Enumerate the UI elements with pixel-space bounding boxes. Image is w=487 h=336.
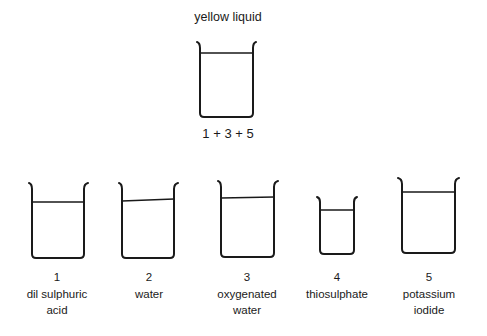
beaker-name-line2: acid	[27, 302, 88, 319]
beaker-2	[119, 183, 178, 258]
beaker-name-line2: iodide	[403, 302, 455, 319]
top-mix-label: 1 + 3 + 5	[202, 126, 253, 143]
beaker-name-line1: thiosulphate	[306, 286, 368, 303]
beaker-3-label: 3 oxygenated water	[217, 269, 276, 319]
beaker-4	[317, 197, 357, 254]
beaker-number: 3	[217, 269, 276, 286]
beaker-number: 5	[403, 269, 455, 286]
beaker-1-label: 1 dil sulphuric acid	[27, 269, 88, 319]
beaker-1	[29, 183, 88, 258]
beaker-name-line1: potassium	[403, 286, 455, 303]
beaker-4-label: 4 thiosulphate	[306, 269, 368, 302]
beaker-name-line1: dil sulphuric	[27, 286, 88, 303]
beaker-mixed	[197, 42, 256, 117]
top-title: yellow liquid	[194, 9, 261, 26]
beaker-number: 2	[135, 269, 163, 286]
beaker-2-label: 2 water	[135, 269, 163, 302]
beaker-5	[398, 178, 459, 253]
beaker-number: 4	[306, 269, 368, 286]
beaker-3	[218, 181, 278, 257]
beaker-name-line1: water	[135, 286, 163, 303]
beaker-name-line1: oxygenated	[217, 286, 276, 303]
beaker-name-line2: water	[217, 302, 276, 319]
beaker-5-label: 5 potassium iodide	[403, 269, 455, 319]
beaker-number: 1	[27, 269, 88, 286]
